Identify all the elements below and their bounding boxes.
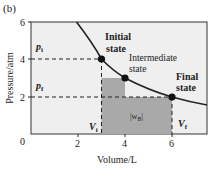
intermediate-state-label-1: Intermediate [129,53,177,63]
x-tick-6: 6 [169,138,174,149]
pv-diagram: (b) 6 4 2 0 2 4 6 Volume/L Pressure/atm … [0,0,213,171]
y-tick-2: 2 [20,92,25,103]
initial-state-label-2: state [106,43,127,54]
work-label: |wB| [130,112,143,122]
y-tick-6: 6 [20,17,25,28]
panel-label: (b) [3,2,16,15]
intermediate-state-label-2: state [129,64,146,74]
initial-state-label-1: Initial [105,31,131,42]
x-tick-2: 2 [75,138,80,149]
initial-state-point [98,55,105,62]
x-tick-4: 4 [122,138,127,149]
x-tick-0: 0 [20,136,25,147]
final-state-label-1: Final [176,71,198,82]
x-axis-label: Volume/L [97,154,137,165]
shaded-step-region [102,78,126,97]
final-state-label-2: state [176,82,197,93]
y-tick-4: 4 [20,54,25,65]
intermediate-state-point [121,74,128,81]
y-axis-label: Pressure/atm [4,52,15,104]
final-state-point [168,93,175,100]
